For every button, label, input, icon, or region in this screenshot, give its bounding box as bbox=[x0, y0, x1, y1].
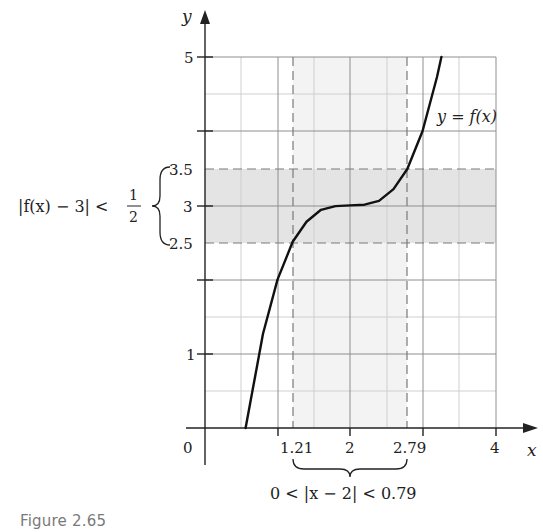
fraction-denominator: 2 bbox=[129, 209, 138, 225]
x-axis-arrow-icon bbox=[523, 423, 538, 433]
x-tick-label-121: 1.21 bbox=[280, 439, 313, 457]
x-tick-label-279: 2.79 bbox=[393, 439, 426, 457]
x-tick-label-2: 2 bbox=[345, 439, 355, 457]
y-tick-label-25: 2.5 bbox=[169, 235, 193, 253]
y-condition-lhs: |f(x) − 3| < bbox=[18, 197, 108, 216]
y-axis-arrow-icon bbox=[200, 10, 210, 24]
y-tick-label-5: 5 bbox=[184, 49, 194, 67]
bottom-brace-icon bbox=[293, 459, 407, 477]
y-tick-label-3: 3 bbox=[183, 198, 193, 216]
y-tick-label-35: 3.5 bbox=[169, 161, 193, 179]
x-condition: 0 < |x − 2| < 0.79 bbox=[270, 484, 417, 503]
x-axis-label: x bbox=[527, 440, 537, 460]
left-brace-icon bbox=[152, 167, 170, 245]
fraction-numerator: 1 bbox=[129, 187, 138, 203]
x-tick-label-4: 4 bbox=[490, 439, 500, 457]
origin-label: 0 bbox=[183, 439, 193, 457]
figure-caption: Figure 2.65 bbox=[20, 512, 106, 530]
y-axis-label: y bbox=[181, 6, 192, 26]
curve-label: y = f(x) bbox=[436, 107, 497, 126]
y-tick-label-1: 1 bbox=[186, 346, 196, 364]
